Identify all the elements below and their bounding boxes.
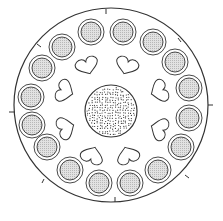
circular-diagram <box>0 0 223 221</box>
pad <box>86 170 112 196</box>
pad <box>57 157 83 183</box>
heart-shape <box>74 54 101 77</box>
pad <box>18 84 44 110</box>
pad <box>140 29 166 55</box>
heart-shape <box>54 114 77 141</box>
pad <box>168 134 194 160</box>
tick-mark <box>42 179 44 183</box>
pad <box>49 34 75 60</box>
center-stippled-disc <box>85 85 137 137</box>
heart-shape <box>114 143 141 166</box>
pad <box>110 19 136 45</box>
pad <box>117 170 143 196</box>
pad <box>29 55 55 81</box>
heart-shape <box>113 54 140 77</box>
pad <box>145 157 171 183</box>
heart-shape <box>147 115 170 142</box>
pad <box>176 105 202 131</box>
tick-mark <box>37 44 41 47</box>
heart-shape <box>79 143 106 166</box>
pad <box>34 134 60 160</box>
tick-mark <box>178 38 181 42</box>
pad <box>176 75 202 101</box>
pad <box>78 19 104 45</box>
heart-shape <box>147 78 170 105</box>
pad <box>162 49 188 75</box>
tick-mark <box>185 175 189 178</box>
pad <box>19 112 45 138</box>
heart-shape <box>53 78 76 105</box>
